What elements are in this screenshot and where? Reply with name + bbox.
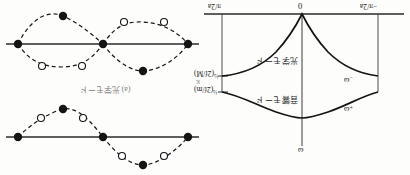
omega-limit-m-label: ½(2f/m) xyxy=(194,85,217,94)
open-circle xyxy=(38,115,45,122)
dispersion-panel: π/2a 0 −π/2a ½(2f/M) ½(2f/m) 光学モード 音響モード… xyxy=(198,0,410,175)
open-circle xyxy=(80,115,87,122)
omega-minus-subscript: − xyxy=(350,75,353,81)
acoustic-wave-right xyxy=(103,137,188,165)
filled-circle xyxy=(184,133,192,141)
open-circle xyxy=(161,19,168,26)
k-tick-right: −π/2a xyxy=(360,2,377,10)
filled-circle xyxy=(139,67,147,75)
k-tick-center: 0 xyxy=(298,1,302,10)
optical-panel-caption: (a) 光学モード xyxy=(50,82,160,96)
dispersion-plot xyxy=(198,0,410,175)
omega-plus-base: ω xyxy=(344,105,350,115)
omega-limit-M-label: ½(2f/M) xyxy=(194,69,218,78)
omega-axis-label: ω xyxy=(298,146,304,155)
filled-circle xyxy=(59,105,67,113)
omega-minus-base: ω xyxy=(344,76,350,86)
optical-mode-panel xyxy=(0,0,205,88)
filled-circle xyxy=(139,161,147,169)
filled-circle xyxy=(59,12,67,20)
open-circle xyxy=(39,63,46,70)
omega-limit-M-base: (2f/M) xyxy=(194,69,214,78)
omega-plus-label: +ω xyxy=(344,103,353,114)
optical-lower-right-curve xyxy=(103,44,188,71)
omega-minus-label: −ω xyxy=(344,74,353,85)
omega-plus-subscript: + xyxy=(350,104,353,110)
acoustic-mode-panel xyxy=(0,95,205,175)
open-circle xyxy=(79,63,86,70)
acoustic-mode-plot xyxy=(0,95,205,175)
filled-circle xyxy=(184,40,192,48)
acoustic-branch-label: 音響モード xyxy=(256,95,298,103)
optical-lower-left-curve xyxy=(18,44,103,67)
omega-limit-m-exponent: ½ xyxy=(213,89,217,95)
optical-mode-plot xyxy=(0,0,205,88)
filled-circle xyxy=(99,133,107,141)
acoustic-branch-curve xyxy=(222,92,378,118)
open-circle xyxy=(121,19,128,26)
filled-circle xyxy=(99,40,107,48)
open-circle xyxy=(161,153,168,160)
omega-limit-m-base: (2f/m) xyxy=(194,85,213,94)
optical-branch-curve xyxy=(222,14,378,76)
optical-upper-right-curve xyxy=(103,22,188,44)
figure-page: (a) 光学モード ĸ xyxy=(0,0,410,175)
omega-limit-M-exponent: ½ xyxy=(214,73,218,79)
open-circle xyxy=(119,153,126,160)
filled-circle xyxy=(14,40,22,48)
optical-branch-label: 光学モード xyxy=(256,56,298,64)
acoustic-wave-left xyxy=(18,109,103,137)
k-tick-left: π/2a xyxy=(208,2,221,10)
filled-circle xyxy=(14,133,22,141)
